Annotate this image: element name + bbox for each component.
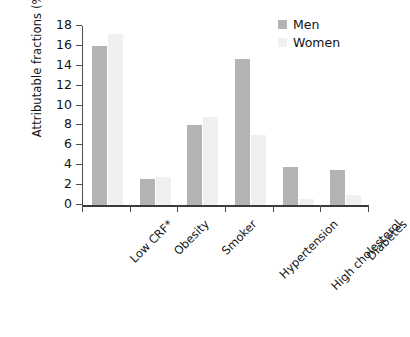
y-axis-title: Attributable fractions (%) <box>30 0 44 163</box>
y-tick: 2 <box>76 184 82 185</box>
x-tick <box>273 205 274 212</box>
x-tick-label: Hypertension <box>276 217 340 281</box>
y-tick-label: 6 <box>64 136 72 152</box>
y-tick-label: 0 <box>64 196 72 212</box>
x-tick-label: Low CRF* <box>127 217 176 266</box>
bar-group <box>330 26 361 205</box>
x-tick-label: Smoker <box>219 217 260 258</box>
x-tick <box>82 205 83 212</box>
x-tick <box>130 205 131 212</box>
x-tick <box>368 205 369 212</box>
y-tick-label: 12 <box>56 77 72 93</box>
bar-men <box>92 46 107 205</box>
bar-men <box>235 59 250 205</box>
bar-women <box>346 195 361 205</box>
chart-legend: MenWomen <box>278 16 340 52</box>
legend-item: Women <box>278 34 340 51</box>
y-tick: 4 <box>76 164 82 165</box>
legend-swatch-icon <box>278 20 287 29</box>
y-tick: 6 <box>76 144 82 145</box>
y-tick: 10 <box>76 105 82 106</box>
bar-group <box>140 26 171 205</box>
y-tick-label: 8 <box>64 116 72 132</box>
legend-swatch-icon <box>278 38 287 47</box>
y-tick-label: 14 <box>56 57 72 73</box>
y-axis-line <box>82 26 83 205</box>
bar-group <box>283 26 314 205</box>
bar-men <box>330 170 345 205</box>
x-tick <box>225 205 226 212</box>
bar-group <box>235 26 266 205</box>
y-tick: 12 <box>76 85 82 86</box>
legend-label: Men <box>293 17 319 32</box>
y-tick-label: 4 <box>64 156 72 172</box>
y-tick-label: 2 <box>64 176 72 192</box>
y-tick: 18 <box>76 25 82 26</box>
y-tick-label: 16 <box>56 37 72 53</box>
x-tick <box>177 205 178 212</box>
bar-men <box>187 125 202 205</box>
bar-group <box>92 26 123 205</box>
y-tick: 16 <box>76 45 82 46</box>
bar-women <box>156 177 171 205</box>
bar-women <box>299 199 314 205</box>
x-tick-label: Obesity <box>171 217 212 258</box>
bar-women <box>203 117 218 206</box>
legend-label: Women <box>293 35 340 50</box>
bar-women <box>251 135 266 205</box>
y-tick-label: 18 <box>56 17 72 33</box>
legend-item: Men <box>278 16 340 33</box>
bar-men <box>283 167 298 205</box>
bar-group <box>187 26 218 205</box>
y-tick: 14 <box>76 65 82 66</box>
y-tick: 8 <box>76 124 82 125</box>
x-tick <box>320 205 321 212</box>
bar-men <box>140 179 155 205</box>
plot-area: 024681012141618 Low CRF*ObesitySmokerHyp… <box>82 26 368 205</box>
y-tick-label: 10 <box>56 97 72 113</box>
bar-women <box>108 34 123 205</box>
